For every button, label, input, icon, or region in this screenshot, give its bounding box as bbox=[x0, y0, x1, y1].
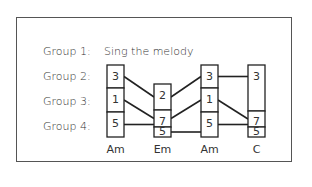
chord-tone: 5 bbox=[206, 117, 213, 130]
chord-tone: 5 bbox=[253, 125, 260, 138]
chord-name-label: Am bbox=[106, 143, 124, 156]
voice-line bbox=[171, 100, 201, 119]
chord-box-em-1: 275Em bbox=[154, 84, 172, 156]
chord-tone: 5 bbox=[112, 117, 119, 130]
chord-tone: 5 bbox=[159, 125, 166, 138]
chord-box-am-2: 315Am bbox=[200, 65, 218, 156]
chord-tone: 1 bbox=[206, 93, 213, 106]
chord-name-label: Em bbox=[154, 143, 172, 156]
chord-name-label: C bbox=[253, 143, 261, 156]
chord-voicing-chart: 315Am275Em315Am375C bbox=[0, 0, 312, 187]
voice-line bbox=[171, 77, 201, 98]
chord-tone: 3 bbox=[206, 70, 213, 83]
voice-line bbox=[218, 100, 248, 119]
chord-tone: 1 bbox=[112, 93, 119, 106]
chord-tone: 3 bbox=[112, 70, 119, 83]
chord-box-am-0: 315Am bbox=[106, 65, 124, 156]
chord-tone: 2 bbox=[159, 89, 166, 102]
voice-leading-diagram: Group 1: Sing the melody Group 2: Group … bbox=[0, 0, 312, 187]
voice-line bbox=[124, 77, 154, 98]
voice-line bbox=[124, 100, 154, 119]
chord-name-label: Am bbox=[200, 143, 218, 156]
chord-tone: 3 bbox=[253, 70, 260, 83]
chord-box-c-3: 375C bbox=[248, 65, 265, 156]
